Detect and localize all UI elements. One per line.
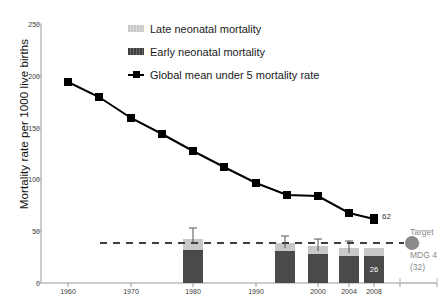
line-point-1990 <box>252 179 260 187</box>
legend-item-under5-line: Global mean under 5 mortality rate <box>128 63 319 86</box>
target-annotation-line-2: for <box>410 239 445 251</box>
under5-mortality-line <box>68 82 374 219</box>
bar-early-2000 <box>308 254 328 283</box>
line-point-1980 <box>189 147 197 155</box>
line-point-1960 <box>64 78 72 86</box>
line-marker-swatch-icon <box>128 69 144 80</box>
line-point-1965 <box>95 93 103 101</box>
bar-late-2008 <box>364 248 384 256</box>
chart-legend: Late neonatal mortality Early neonatal m… <box>128 17 319 86</box>
data-label-2008-bar: 26 <box>364 265 384 274</box>
line-point-1995 <box>283 191 291 199</box>
legend-item-late-neonatal: Late neonatal mortality <box>128 17 319 40</box>
target-annotation: Target for MDG 4 (32) <box>410 227 445 273</box>
late-neonatal-swatch-icon <box>128 25 144 32</box>
early-neonatal-swatch-icon <box>128 48 144 55</box>
data-label-2008-line: 62 <box>382 212 391 221</box>
line-point-1975 <box>158 130 166 138</box>
target-annotation-line-3: MDG 4 <box>410 250 445 262</box>
line-point-2008 <box>370 214 378 224</box>
legend-item-early-neonatal: Early neonatal mortality <box>128 40 319 63</box>
legend-label-under5-line: Global mean under 5 mortality rate <box>150 69 319 81</box>
bar-early-2004 <box>339 256 359 283</box>
line-point-2000 <box>314 192 322 200</box>
line-point-1970 <box>127 114 135 122</box>
bar-early-1980 <box>183 250 203 283</box>
chart-container: Mortality rate per 1000 live births 250 … <box>0 0 445 301</box>
line-point-1985 <box>220 163 228 171</box>
bar-early-1995 <box>275 251 295 283</box>
target-annotation-line-1: Target <box>410 227 445 239</box>
target-annotation-line-4: (32) <box>410 262 445 274</box>
line-point-2004 <box>345 209 353 217</box>
legend-label-early-neonatal: Early neonatal mortality <box>150 46 265 58</box>
legend-label-late-neonatal: Late neonatal mortality <box>150 23 261 35</box>
